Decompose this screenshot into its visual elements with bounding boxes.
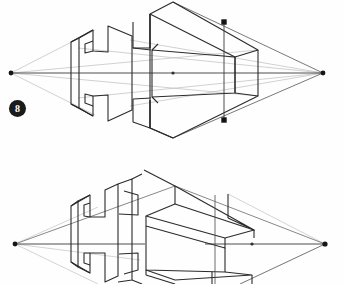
construction-line [15, 207, 98, 244]
h-profile-far-inner-lower [85, 94, 93, 106]
h-block-solid-group [71, 174, 142, 284]
h-profile-edge [71, 104, 93, 116]
block-top-plane [150, 2, 258, 57]
block-slot-top-edge [152, 44, 158, 50]
h-profile-far-inner-upper [85, 41, 93, 53]
h-block-top-edge [132, 174, 142, 179]
horizon-line-group [13, 241, 328, 246]
center-horizon-point [250, 242, 253, 245]
volume-shelf-front-face [146, 216, 225, 248]
figure-9-panel: 9 [0, 142, 343, 284]
h-profile-middle-notch-lower [133, 98, 151, 99]
left-vanishing-point [13, 242, 18, 247]
h-profile-middle-face [133, 14, 150, 128]
h-profile-near-face [79, 26, 132, 121]
h-profile-edge [71, 30, 93, 42]
upper-measure-point [221, 19, 226, 24]
figure-8-panel: 8 [0, 0, 343, 142]
volume-lower-shelf-front [146, 275, 175, 284]
horizon-line-group [9, 71, 326, 76]
receding-block-group [150, 2, 258, 138]
vertical-measure-line-group [221, 19, 226, 122]
left-vanishing-point [9, 71, 14, 76]
drawing-sheet: 8 [0, 0, 343, 284]
envelope-line-upper-left [15, 186, 175, 244]
volume-recess-face [146, 226, 225, 272]
h-block-bottom-edge [132, 280, 142, 284]
perspective-envelope-group [15, 186, 325, 284]
h-block-notch-lower [84, 253, 90, 265]
construction-line [228, 194, 325, 244]
h-block-lower-notch-right [119, 253, 138, 274]
envelope-line-lower-right [173, 73, 323, 138]
figure-8-h-block-perspective [0, 0, 343, 142]
lower-measure-point [221, 117, 226, 122]
right-vanishing-point [321, 71, 326, 76]
h-block-notch-upper [84, 203, 90, 217]
figure-number-badge-8: 8 [10, 101, 25, 116]
figure-9-h-block-perspective [0, 142, 343, 284]
right-vanishing-point [322, 241, 327, 246]
block-lower-front-edge [150, 128, 173, 138]
h-profile-middle-group [133, 14, 151, 128]
h-profile-plate-group [71, 26, 132, 121]
shelved-volume-group [144, 170, 254, 284]
h-block-thickness-face [118, 179, 132, 282]
center-horizon-point [171, 71, 174, 74]
construction-lines-group [11, 30, 323, 115]
perspective-envelope-group [173, 2, 323, 138]
envelope-line-lower-right [240, 244, 325, 284]
h-block-side-plane [71, 201, 78, 267]
volume-roof-plane [144, 170, 254, 230]
envelope-line-upper-right [175, 186, 325, 244]
